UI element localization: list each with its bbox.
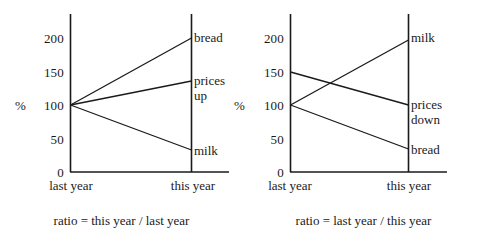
right-series-milk: [291, 40, 409, 105]
left-caption-ratio: ratio = this year / last year: [0, 214, 243, 227]
right-series-label-bread: bread: [411, 143, 440, 157]
left-ytick-200: 200: [12, 32, 64, 45]
right-series-bread: [291, 105, 409, 149]
right-caption-ratio: ratio = last year / this year: [242, 214, 485, 227]
right-series-label-milk: milk: [411, 31, 435, 45]
right-ytick-150: 150: [232, 66, 284, 79]
left-series-bread: [71, 38, 192, 105]
two-panel-ratio-figure: 200 150 % 100 50 0 bread prices up milk …: [0, 0, 485, 243]
left-ytick-50: 50: [12, 133, 64, 146]
left-series-label-bread: bread: [194, 31, 223, 45]
left-ytick-100: 100: [12, 99, 64, 112]
left-ytick-150: 150: [12, 66, 64, 79]
left-xtick-this-year: this year: [148, 179, 238, 192]
right-xtick-this-year: this year: [364, 179, 454, 192]
right-series-label-down: down: [411, 113, 440, 127]
right-ytick-200: 200: [232, 32, 284, 45]
right-ytick-100: 100: [232, 99, 284, 112]
left-series-label-prices: prices: [194, 74, 225, 88]
left-series-prices-up: [71, 81, 192, 105]
right-ytick-50: 50: [232, 133, 284, 146]
left-series-milk: [71, 105, 192, 150]
panel-this-year-over-last-year: 200 150 % 100 50 0 bread prices up milk …: [0, 0, 243, 243]
left-series-label-up: up: [194, 89, 207, 103]
right-series-label-prices: prices: [411, 98, 442, 112]
panel-last-year-over-this-year: 200 150 % 100 50 0 milk prices down brea…: [242, 0, 485, 243]
right-xtick-last-year: last year: [245, 179, 335, 192]
left-series-label-milk: milk: [194, 144, 218, 158]
left-xtick-last-year: last year: [26, 179, 116, 192]
right-series-prices-down: [291, 72, 409, 105]
